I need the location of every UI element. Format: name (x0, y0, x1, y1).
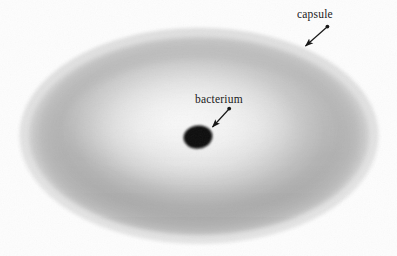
bacterium-label: bacterium (195, 94, 243, 106)
capsule-label: capsule (297, 9, 333, 21)
paper-grain-overlay (0, 0, 397, 256)
capsule-bacterium-illustration (0, 0, 397, 256)
figure-canvas: capsule bacterium (0, 0, 397, 256)
